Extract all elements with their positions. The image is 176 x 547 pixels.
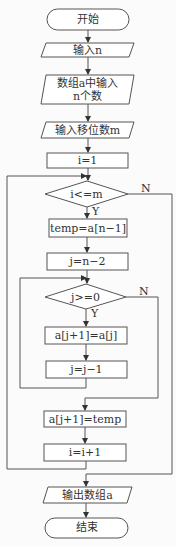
input-array-label-1: 数组a中输入: [41, 77, 134, 90]
init-i-label: i=1: [47, 154, 128, 167]
input-array-label-2: n个数: [41, 90, 134, 103]
cond-j-yes-label: Y: [91, 307, 98, 320]
end-label: 结束: [45, 521, 128, 534]
temp-label: temp=a[n−1]: [49, 222, 127, 235]
init-j-label: j=n−2: [47, 255, 128, 268]
place-label: a[j+1]=temp: [44, 413, 126, 426]
start-label: 开始: [47, 13, 129, 26]
input-n-label: 输入n: [41, 44, 134, 57]
cond-i-label: i<=m: [45, 188, 128, 201]
shift-label: a[j+1]=a[j]: [45, 329, 127, 342]
inc-i-label: i=i+1: [44, 446, 126, 459]
cond-j-label: j>=0: [45, 291, 126, 304]
cond-i-yes-label: Y: [92, 205, 99, 218]
dec-j-label: j=j−1: [46, 363, 127, 376]
cond-j-no-label: N: [139, 285, 149, 298]
input-m-label: 输入移位数m: [41, 124, 134, 137]
output-label: 输出数组a: [43, 489, 132, 502]
cond-i-no-label: N: [141, 182, 151, 195]
